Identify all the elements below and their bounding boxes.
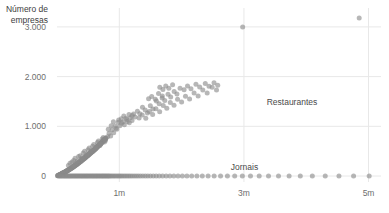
y-tick-label: 0 bbox=[0, 171, 46, 181]
data-point bbox=[215, 83, 220, 88]
data-point bbox=[179, 100, 184, 105]
data-point bbox=[240, 174, 245, 179]
data-point bbox=[127, 120, 132, 125]
data-point bbox=[206, 174, 211, 179]
x-tick-label: 3m bbox=[238, 188, 250, 198]
data-point bbox=[157, 109, 162, 114]
data-point bbox=[200, 174, 205, 179]
data-point bbox=[176, 174, 181, 179]
point-annotation: Restaurantes bbox=[267, 97, 318, 107]
data-point bbox=[210, 85, 215, 90]
data-point bbox=[184, 174, 189, 179]
data-point bbox=[160, 94, 165, 99]
data-point bbox=[196, 93, 201, 98]
data-point bbox=[214, 87, 219, 92]
gridlines bbox=[57, 8, 381, 182]
data-point bbox=[174, 92, 179, 97]
data-point bbox=[192, 91, 197, 96]
data-point bbox=[248, 174, 253, 179]
data-point bbox=[168, 95, 173, 100]
scatter-chart: Número de empresas 01.0002.0003.000 1m3m… bbox=[0, 0, 389, 213]
data-point bbox=[336, 174, 341, 179]
data-point bbox=[75, 159, 80, 164]
data-points-layer bbox=[55, 15, 372, 178]
data-point bbox=[166, 86, 171, 91]
data-point bbox=[225, 174, 230, 179]
data-point bbox=[188, 86, 193, 91]
data-point bbox=[240, 24, 245, 29]
x-tick-label: 1m bbox=[113, 188, 125, 198]
data-point bbox=[266, 174, 271, 179]
data-point bbox=[80, 156, 85, 161]
data-point bbox=[183, 94, 188, 99]
data-point bbox=[200, 88, 205, 93]
data-point bbox=[114, 126, 119, 131]
data-point bbox=[187, 97, 192, 102]
data-point bbox=[212, 174, 217, 179]
data-point bbox=[130, 113, 135, 118]
data-point bbox=[298, 174, 303, 179]
plot-area bbox=[0, 0, 389, 213]
x-tick-label: 5m bbox=[363, 188, 375, 198]
data-point bbox=[153, 97, 158, 102]
data-point bbox=[257, 174, 262, 179]
data-point bbox=[150, 112, 155, 117]
data-point bbox=[94, 145, 99, 150]
data-point bbox=[357, 15, 362, 20]
data-point bbox=[287, 174, 292, 179]
data-point bbox=[89, 148, 94, 153]
data-point bbox=[232, 174, 237, 179]
point-annotation: Jornais bbox=[231, 162, 258, 172]
data-point bbox=[143, 116, 148, 121]
data-point bbox=[310, 174, 315, 179]
data-point bbox=[194, 174, 199, 179]
y-tick-label: 2.000 bbox=[0, 72, 46, 82]
data-point bbox=[189, 174, 194, 179]
data-point bbox=[218, 174, 223, 179]
data-point bbox=[170, 82, 175, 87]
data-point bbox=[205, 90, 210, 95]
y-tick-label: 1.000 bbox=[0, 121, 46, 131]
data-point bbox=[71, 164, 76, 169]
data-point bbox=[276, 174, 281, 179]
data-point bbox=[111, 119, 116, 124]
data-point bbox=[175, 97, 180, 102]
data-point bbox=[323, 174, 328, 179]
data-point bbox=[180, 174, 185, 179]
data-point bbox=[367, 174, 372, 179]
data-point bbox=[172, 103, 177, 108]
data-point bbox=[98, 141, 103, 146]
data-point bbox=[182, 87, 187, 92]
data-point bbox=[162, 98, 167, 103]
y-tick-label: 3.000 bbox=[0, 22, 46, 32]
data-point bbox=[119, 121, 124, 126]
data-point bbox=[351, 174, 356, 179]
data-point bbox=[84, 152, 89, 157]
data-point bbox=[164, 106, 169, 111]
